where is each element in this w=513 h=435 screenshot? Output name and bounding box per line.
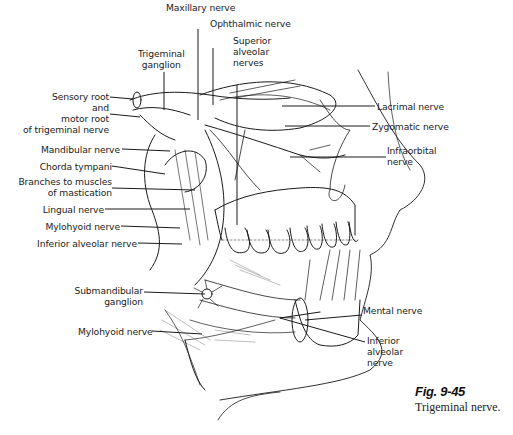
label-line: ganglion <box>138 59 185 70</box>
label-line: Infraorbital <box>387 145 437 156</box>
label-line: Branches to muscles <box>4 176 112 187</box>
label-inferior-alveolar-nerve-right: Inferior alveolar nerve <box>367 335 403 368</box>
figure-number: Fig. 9-45 <box>415 384 501 399</box>
label-line: ganglion <box>50 296 143 307</box>
label-submandibular-ganglion: Submandibular ganglion <box>50 285 143 307</box>
label-line: motor root <box>22 113 109 124</box>
label-mandibular-nerve: Mandibular nerve <box>20 144 120 155</box>
label-line: alveolar <box>367 346 403 357</box>
label-lingual-nerve: Lingual nerve <box>20 204 104 215</box>
label-line: Sensory root <box>22 91 109 102</box>
label-maxillary-nerve: Maxillary nerve <box>166 2 235 13</box>
label-line: Superior <box>233 35 271 46</box>
figure-caption: Fig. 9-45 Trigeminal nerve. <box>415 384 501 415</box>
label-mylohyoid-nerve-upper: Mylohyoid nerve <box>20 221 120 232</box>
label-trigeminal-ganglion: Trigeminal ganglion <box>138 48 185 70</box>
label-line: Inferior <box>367 335 403 346</box>
label-ophthalmic-nerve: Ophthalmic nerve <box>210 18 291 29</box>
label-line: nerve <box>367 357 403 368</box>
label-mylohyoid-nerve-lower: Mylohyoid nerve <box>78 326 153 337</box>
label-inferior-alveolar-nerve-left: Inferior alveolar nerve <box>20 238 137 249</box>
figure-title: Trigeminal nerve. <box>415 400 501 415</box>
label-infraorbital-nerve: Infraorbital nerve <box>387 145 437 167</box>
label-line: of trigeminal nerve <box>22 124 109 135</box>
label-line: of mastication <box>4 187 112 198</box>
label-line: alveolar <box>233 46 271 57</box>
label-mental-nerve: Mental nerve <box>363 305 422 316</box>
label-line: Submandibular <box>50 285 143 296</box>
label-line: nerve <box>387 156 437 167</box>
label-branches-mastication: Branches to muscles of mastication <box>4 176 112 198</box>
label-chorda-tympani: Chorda tympani <box>20 161 112 172</box>
label-lacrimal-nerve: Lacrimal nerve <box>377 101 444 112</box>
label-sensory-motor-root: Sensory root and motor root of trigemina… <box>22 91 109 135</box>
label-line: nerves <box>233 57 271 68</box>
label-superior-alveolar-nerves: Superior alveolar nerves <box>233 35 271 68</box>
label-zygomatic-nerve: Zygomatic nerve <box>372 121 449 132</box>
label-line: Trigeminal <box>138 48 185 59</box>
label-line: and <box>22 102 109 113</box>
trigeminal-nerve-figure: Maxillary nerve Ophthalmic nerve Trigemi… <box>0 0 513 435</box>
